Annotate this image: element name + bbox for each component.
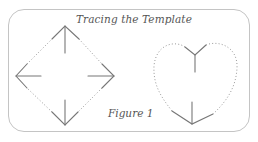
arrow-up-icon: [52, 26, 79, 53]
arrow-down-icon: [52, 100, 78, 125]
heart-bottom-point-guide: [172, 102, 213, 124]
tracing-shapes: [0, 0, 258, 142]
figure-caption: Figure 1: [108, 107, 153, 119]
diagram-canvas: Tracing the Template: [0, 0, 258, 142]
heart-shape: [154, 43, 237, 124]
arrow-right-icon: [88, 64, 114, 88]
heart-top-notch-guide: [185, 45, 206, 72]
diamond-shape: [16, 26, 114, 125]
arrow-left-icon: [16, 64, 41, 88]
